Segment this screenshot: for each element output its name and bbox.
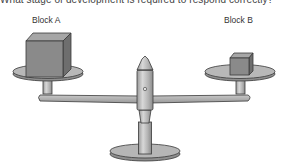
block-b-cube [230,53,253,75]
scale-stem [139,110,152,154]
scale-pillar [137,56,153,110]
balance-scale-diagram [0,0,285,166]
block-a-cube [26,33,71,77]
pivot-icon [143,87,146,90]
